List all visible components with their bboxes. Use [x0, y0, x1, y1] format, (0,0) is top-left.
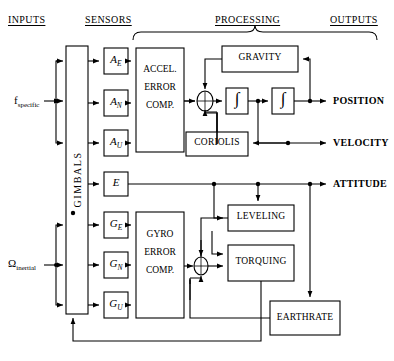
gyro-north-sub: N — [117, 263, 122, 272]
wire-f-branch-up — [56, 61, 60, 101]
gimbals-label: GIMBALS — [72, 148, 83, 212]
accel-east-label: AE — [104, 54, 128, 68]
gravity-label: GRAVITY — [222, 53, 298, 63]
gyro-north-label: GN — [104, 258, 128, 272]
wire-leveling-feedback — [201, 218, 228, 257]
accel-north-sub: N — [117, 101, 122, 110]
earthrate-label: EARTHRATE — [270, 313, 340, 323]
gyro-error-comp-label: GYRO ERROR COMP. — [136, 225, 184, 279]
accel-error-comp-line-2: ERROR — [136, 78, 184, 96]
gyro-up-sub: U — [117, 303, 122, 312]
wire-attitude-to-leveling — [214, 184, 223, 218]
accel-east-sub: E — [117, 59, 122, 68]
column-header-sensors: SENSORS — [85, 14, 132, 25]
gyro-east-base: G — [110, 217, 118, 229]
wire-gravity-to-sum — [205, 59, 222, 89]
integrator-2-label: ∫ — [272, 89, 294, 109]
gyro-up-label: GU — [104, 298, 128, 312]
wire-leveling-to-torquing — [212, 231, 223, 254]
accel-up-label: AU — [104, 136, 128, 150]
gyro-error-comp-line-2: ERROR — [136, 243, 184, 261]
processing-brace — [133, 25, 377, 40]
wire-f-branch-down — [56, 101, 63, 143]
wire-position-to-gravity — [303, 59, 310, 101]
accel-north-label: AN — [104, 96, 128, 110]
input-label-omega-inertial: Ωinertial — [8, 257, 36, 272]
gyro-east-label: GE — [104, 218, 128, 232]
input-omega-sub: inertial — [16, 264, 36, 272]
e-box-label: E — [104, 177, 128, 188]
output-label-attitude: ATTITUDE — [333, 178, 387, 189]
torquing-label: TORQUING — [228, 257, 294, 267]
wire-earthrate-to-gyro-sum — [190, 280, 270, 318]
gyro-error-comp-line-3: COMP. — [136, 261, 184, 279]
leveling-label: LEVELING — [228, 212, 294, 222]
accel-north-base: A — [110, 95, 117, 107]
column-header-inputs: INPUTS — [8, 14, 45, 25]
gyro-east-sub: E — [118, 223, 123, 232]
input-label-f-specific: fspecific — [14, 94, 39, 109]
accel-up-base: A — [110, 135, 117, 147]
input-omega-base: Ω — [8, 257, 16, 269]
inertial-navigation-block-diagram: INPUTS SENSORS PROCESSING OUTPUTS fspeci… — [0, 0, 394, 361]
input-f-sub: specific — [18, 101, 40, 109]
accel-up-sub: U — [117, 141, 122, 150]
accel-error-comp-line-1: ACCEL. — [136, 60, 184, 78]
integrator-1-label: ∫ — [226, 89, 248, 109]
wire-omega-branch-down — [56, 265, 63, 305]
wire-omega-branch-up — [56, 225, 63, 265]
output-label-velocity: VELOCITY — [333, 137, 389, 148]
gyro-error-comp-line-1: GYRO — [136, 225, 184, 243]
coriolis-label: CORIOLIS — [186, 138, 248, 148]
e-box-base: E — [113, 176, 120, 188]
column-header-processing: PROCESSING — [215, 14, 280, 25]
accel-error-comp-line-3: COMP. — [136, 96, 184, 114]
output-label-position: POSITION — [333, 95, 384, 106]
column-header-outputs: OUTPUTS — [330, 14, 378, 25]
accel-error-comp-label: ACCEL. ERROR COMP. — [136, 60, 184, 114]
